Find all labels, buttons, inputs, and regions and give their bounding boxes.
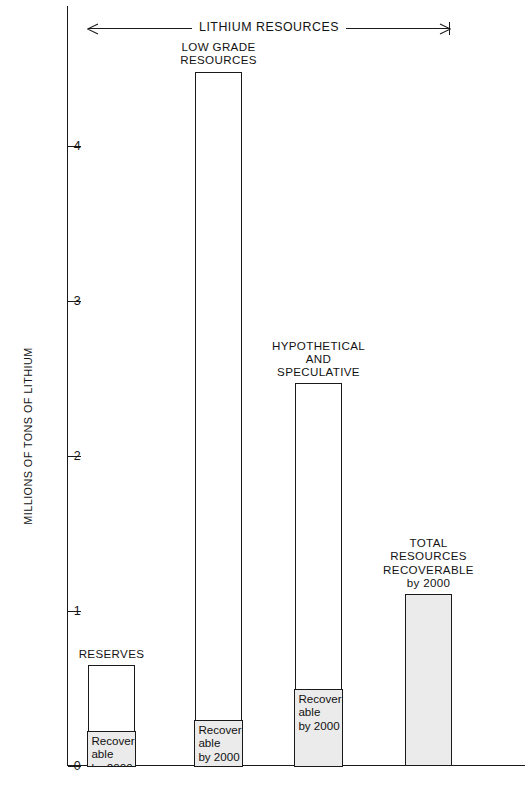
y-axis-line xyxy=(67,6,68,766)
bar-caption-line: HYPOTHETICAL xyxy=(272,339,365,352)
bar-4-caption: TOTALRESOURCESRECOVERABLEby 2000 xyxy=(383,536,474,589)
lithium-resources-bar-chart: MILLIONS OF TONS OF LITHIUM 01234 LITHIU… xyxy=(0,0,526,785)
bar-caption-line: AND xyxy=(272,352,365,365)
y-tick-label: 3 xyxy=(59,294,81,308)
bar-caption-line: RESERVES xyxy=(79,647,145,660)
bracket-line-right xyxy=(332,28,450,29)
bar-caption-line: by 2000 xyxy=(383,576,474,589)
bar-caption-line: RESOURCES xyxy=(180,53,257,66)
y-tick-label: 2 xyxy=(59,449,81,463)
recoverable-label-line: able xyxy=(91,747,135,760)
lithium-resources-bracket: LITHIUM RESOURCES xyxy=(88,28,450,29)
bar-1-recoverable-label: Recover-ableby 2000 xyxy=(91,734,135,767)
bar-caption-line: LOW GRADE xyxy=(180,40,257,53)
bar-caption-line: TOTAL xyxy=(383,536,474,549)
bar-1: Recover-ableby 2000 xyxy=(88,665,135,766)
bar-2: Recover-ableby 2000 xyxy=(195,72,242,766)
bar-3: Recover-ableby 2000 xyxy=(295,383,342,766)
bar-2-recoverable-segment: Recover-ableby 2000 xyxy=(194,720,242,767)
y-tick-label: 4 xyxy=(59,139,81,153)
y-tick-label: 0 xyxy=(59,759,81,773)
bar-1-caption: RESERVES xyxy=(79,647,145,660)
bar-caption-line: RECOVERABLE xyxy=(383,563,474,576)
bar-3-recoverable-label: Recover-ableby 2000 xyxy=(298,692,342,732)
bar-4 xyxy=(405,594,452,766)
recoverable-label-line: able xyxy=(298,705,342,718)
bar-caption-line: RESOURCES xyxy=(383,549,474,562)
y-tick-label: 1 xyxy=(59,604,81,618)
recoverable-label-line: by 2000 xyxy=(198,750,242,763)
recoverable-label-line: Recover- xyxy=(198,723,242,736)
y-axis-title: MILLIONS OF TONS OF LITHIUM xyxy=(22,316,34,556)
bar-1-recoverable-segment: Recover-ableby 2000 xyxy=(87,731,135,767)
bar-3-caption: HYPOTHETICALANDSPECULATIVE xyxy=(272,339,365,379)
recoverable-label-line: Recover- xyxy=(298,692,342,705)
arrow-right-icon xyxy=(439,23,451,35)
bar-3-recoverable-segment: Recover-ableby 2000 xyxy=(294,689,342,767)
recoverable-label-line: able xyxy=(198,736,242,749)
recoverable-label-line: Recover- xyxy=(91,734,135,747)
arrow-left-icon xyxy=(87,23,99,35)
bar-2-recoverable-label: Recover-ableby 2000 xyxy=(198,723,242,763)
recoverable-label-line: by 2000 xyxy=(91,761,135,767)
bar-caption-line: SPECULATIVE xyxy=(272,365,365,378)
bar-2-caption: LOW GRADERESOURCES xyxy=(180,40,257,66)
recoverable-label-line: by 2000 xyxy=(298,719,342,732)
bracket-label: LITHIUM RESOURCES xyxy=(192,20,346,34)
